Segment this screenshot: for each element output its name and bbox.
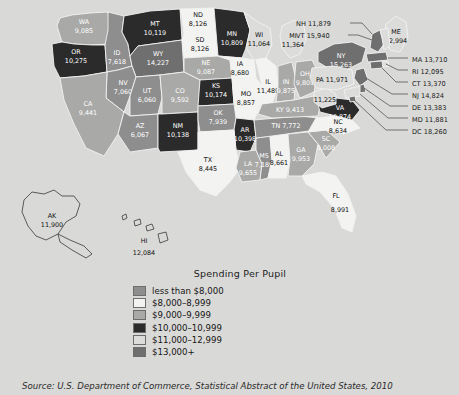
state-label-MO: MO [241, 90, 252, 98]
legend-item-2[interactable]: $9,000–9,999 [133, 310, 333, 320]
state-label-SD: SD [196, 36, 205, 44]
callout-MA: MA 13,710 [412, 56, 447, 64]
state-CO[interactable]: CO 9,592 [160, 72, 200, 114]
state-label-NY: NY [337, 52, 346, 60]
state-label-GA: GA [296, 146, 306, 154]
state-label-WA: WA [79, 18, 90, 26]
legend-item-0[interactable]: less than $8,000 [133, 286, 333, 296]
state-label-VA: VA [336, 104, 345, 112]
state-NM[interactable]: NM 10,138 [158, 112, 198, 152]
state-value-TX: 8,445 [199, 165, 217, 173]
state-value-WV: 11,225 [314, 96, 336, 104]
callout-NJ: NJ 14,824 [412, 92, 444, 100]
state-value-GA: 9,953 [292, 155, 310, 163]
state-label-WY: WY [153, 50, 163, 58]
state-value-AZ: 6,067 [131, 131, 149, 139]
state-label-OH: OH [300, 70, 310, 78]
legend-label-2: $9,000–9,999 [152, 310, 211, 320]
callout-MD: MD 11,881 [412, 116, 448, 124]
state-KS[interactable]: KS 10,174 [198, 78, 234, 106]
state-value-LA: 9,655 [239, 169, 257, 177]
state-MN[interactable]: MN 10,809 [214, 8, 250, 58]
state-label-PA-combined: PA 11,971 [316, 76, 348, 84]
state-label-IN: IN [283, 78, 290, 86]
state-AK[interactable]: AK 11,900 [22, 190, 92, 258]
state-value-ND: 8,126 [189, 20, 207, 28]
state-label-SC: SC [322, 135, 331, 143]
state-NJ[interactable] [354, 68, 368, 86]
state-value-SD: 8,126 [191, 45, 209, 53]
legend-swatch-3 [133, 323, 146, 333]
state-value-KS: 10,174 [205, 91, 227, 99]
state-label-CA: CA [84, 100, 93, 108]
state-label-OR: OR [71, 48, 81, 56]
state-value-CA: 9,441 [79, 109, 97, 117]
legend-label-5: $13,000+ [152, 347, 195, 357]
callout-VT: VT 15,940 [296, 32, 330, 40]
state-AR[interactable]: AR 10,398 [234, 118, 256, 152]
state-value-WY: 14,227 [147, 59, 169, 67]
state-label-WI: WI [255, 31, 263, 39]
legend-title: Spending Per Pupil [147, 268, 333, 279]
state-label-IL: IL [265, 78, 271, 86]
state-value-HI: 12,084 [133, 249, 155, 257]
state-ND[interactable]: ND 8,126 [180, 8, 216, 34]
state-HI[interactable]: HI 12,084 [122, 214, 168, 257]
state-label-MT: MT [150, 20, 160, 28]
state-MO[interactable]: MO 8,857 [232, 78, 262, 120]
state-value-NM: 10,138 [167, 131, 189, 139]
state-AZ[interactable]: AZ 6,067 [118, 112, 158, 152]
state-label-KS: KS [212, 82, 220, 90]
state-label-NV: NV [118, 79, 128, 87]
state-value-FL: 8,991 [331, 206, 349, 214]
legend-item-3[interactable]: $10,000–10,999 [133, 323, 333, 333]
state-OK[interactable]: OK 7,939 [198, 104, 236, 132]
state-value-AR: 10,398 [234, 135, 256, 143]
state-value-UT: 6,060 [138, 96, 156, 104]
state-label-ND: ND [193, 11, 203, 19]
callout-CT: CT 13,370 [412, 80, 446, 88]
state-label-KY-combined: KY 9,413 [276, 106, 304, 114]
source-caption: Source: U.S. Department of Commerce, Sta… [22, 381, 393, 391]
state-SD[interactable]: SD 8,126 [182, 32, 218, 58]
legend-item-4[interactable]: $11,000–12,999 [133, 335, 333, 345]
state-label-NM: NM [173, 122, 183, 130]
state-WA[interactable]: WA 9,085 [57, 12, 110, 45]
state-label-TN-combined: TN 7,772 [270, 122, 300, 130]
state-label-ID: ID [114, 49, 121, 57]
state-FL[interactable]: FL 8,991 [302, 172, 356, 232]
state-value-OR: 10,275 [65, 57, 87, 65]
state-label-ME: ME [391, 28, 401, 36]
state-label-TX: TX [203, 156, 213, 164]
state-label-MS: MS [259, 152, 269, 160]
callout-RI: RI 12,095 [412, 68, 444, 76]
map-legend: Spending Per Pupil less than $8,000 $8,0… [133, 268, 333, 359]
state-label-LA: LA [244, 160, 253, 168]
state-WY[interactable]: WY 14,227 [130, 40, 184, 77]
legend-label-1: $8,000–8,999 [152, 298, 211, 308]
state-MA[interactable] [366, 52, 388, 62]
legend-label-4: $11,000–12,999 [152, 335, 222, 345]
state-label-AZ: AZ [136, 122, 145, 130]
state-value-WI: 11,064 [248, 40, 270, 48]
state-label-AL: AL [275, 150, 283, 158]
state-value-NC: 8,634 [329, 127, 347, 135]
state-AL[interactable]: AL 8,661 [268, 134, 290, 178]
state-value-CO: 9,592 [171, 96, 189, 104]
state-CT[interactable] [370, 61, 383, 69]
legend-swatch-5 [133, 347, 146, 357]
state-NY[interactable]: NY 15,263 [318, 42, 366, 70]
state-value-IA: 8,680 [231, 69, 249, 77]
state-UT[interactable]: UT 6,060 [130, 75, 162, 116]
legend-item-5[interactable]: $13,000+ [133, 347, 333, 357]
state-label-AK: AK [48, 212, 57, 220]
state-OR[interactable]: OR 10,275 [52, 42, 107, 78]
state-PA[interactable]: PA 11,971 [310, 66, 354, 90]
state-value-IN: 9,875 [277, 87, 295, 95]
state-value-ID: 7,618 [108, 58, 126, 66]
legend-label-0: less than $8,000 [152, 286, 224, 296]
callout-DE: DE 13,383 [412, 104, 446, 112]
legend-item-1[interactable]: $8,000–8,999 [133, 298, 333, 308]
state-IN[interactable]: IN 9,875 [276, 62, 296, 102]
state-label-AR: AR [241, 126, 250, 134]
